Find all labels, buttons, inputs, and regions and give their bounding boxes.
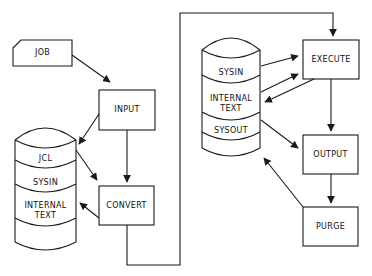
left-store-jcl: JCL xyxy=(15,154,76,164)
left-store-sysin: SYSIN xyxy=(15,178,76,188)
left-store-internal-text: INTERNAL TEXT xyxy=(20,201,71,221)
input-label: INPUT xyxy=(99,105,155,115)
diagram-lines xyxy=(0,0,372,276)
convert-label: CONVERT xyxy=(99,201,154,211)
left-cylinder xyxy=(15,128,76,250)
right-store-internal-text: INTERNAL TEXT xyxy=(206,94,256,114)
right-store-sysin: SYSIN xyxy=(202,68,260,78)
output-label: OUTPUT xyxy=(303,150,358,160)
execute-label: EXECUTE xyxy=(303,55,359,65)
purge-label: PURGE xyxy=(303,222,358,232)
right-store-sysout: SYSOUT xyxy=(202,126,260,136)
job-flow-diagram: JOB INPUT CONVERT EXECUTE OUTPUT PURGE J… xyxy=(0,0,372,276)
job-label: JOB xyxy=(13,48,72,58)
